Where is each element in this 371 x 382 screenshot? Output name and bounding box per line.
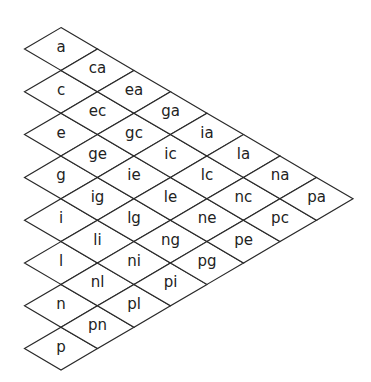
- cell-label: ge: [88, 145, 107, 163]
- cell-label: ie: [127, 166, 140, 184]
- cell-label: nc: [235, 188, 253, 206]
- cell-label: ne: [198, 209, 217, 227]
- cell-label: ca: [89, 59, 106, 77]
- cell-label: pi: [164, 273, 178, 291]
- cell-label: pg: [197, 252, 216, 270]
- cell-label: pa: [307, 188, 326, 206]
- cell-label: pn: [88, 316, 107, 334]
- cell-label: g: [56, 166, 66, 184]
- cell-label: le: [164, 188, 177, 206]
- cell-label: pl: [127, 295, 141, 313]
- cell-label: lc: [201, 166, 213, 184]
- cell-label: a: [56, 38, 65, 56]
- cell-label: pe: [234, 231, 253, 249]
- cell-label: nl: [91, 273, 105, 291]
- cell-label: c: [57, 81, 65, 99]
- cell-label: ic: [164, 145, 176, 163]
- cell-label: ec: [89, 102, 106, 120]
- cell-label: ng: [161, 231, 180, 249]
- cell-label: ni: [127, 252, 141, 270]
- cell-label: lg: [127, 209, 141, 227]
- cell-label: n: [56, 295, 66, 313]
- cell-label: ga: [161, 102, 180, 120]
- cell-label: ig: [91, 188, 105, 206]
- cell-label: li: [93, 231, 101, 249]
- cell-label: ia: [200, 124, 213, 142]
- cell-label: l: [59, 252, 63, 270]
- cell-label: gc: [125, 124, 143, 142]
- cell-label: pc: [271, 209, 289, 227]
- diamond-grid: acegilnpcaecgeiglinlpneagcielgniplgaicle…: [0, 0, 371, 382]
- cell-label: la: [237, 145, 250, 163]
- cell-label: e: [56, 124, 65, 142]
- cell-label: na: [271, 166, 290, 184]
- cell-label: i: [59, 209, 63, 227]
- cell-label: ea: [125, 81, 143, 99]
- cell-label: p: [56, 338, 66, 356]
